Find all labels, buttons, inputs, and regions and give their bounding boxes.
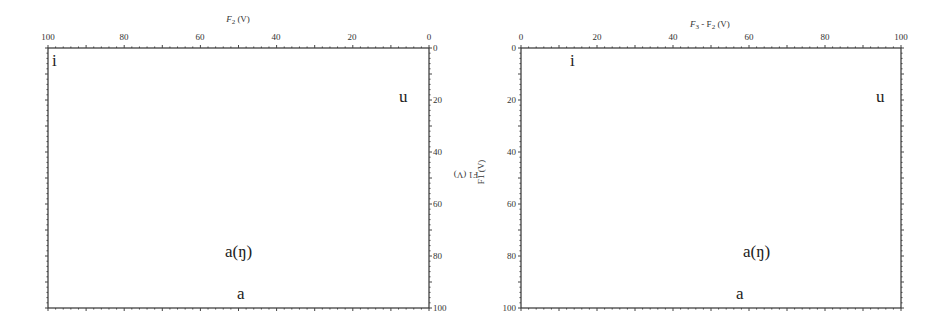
vowel-label-i: i	[52, 51, 57, 70]
vowel-label-u: u	[399, 87, 408, 106]
svg-text:60: 60	[196, 32, 206, 42]
svg-text:80: 80	[120, 32, 130, 42]
svg-text:20: 20	[433, 95, 443, 105]
vowel-label-i: i	[570, 51, 575, 70]
svg-text:40: 40	[507, 147, 517, 157]
right-y-axis-title: F1 (V)	[476, 160, 486, 184]
svg-text:100: 100	[41, 32, 55, 42]
svg-text:20: 20	[348, 32, 358, 42]
left-y-tick-labels: 0 20 40 60 80 100	[433, 43, 447, 313]
left-plot-frame	[48, 48, 429, 308]
right-chart: F3 - F2 (V) 0 20 40 60 80 100 0 20 40 60…	[476, 19, 908, 313]
vowel-label-a-ng: a(ŋ)	[225, 242, 252, 261]
svg-text:60: 60	[433, 199, 443, 209]
vowel-label-u: u	[876, 87, 885, 106]
svg-text:0: 0	[427, 32, 432, 42]
left-x-tick-labels: 100 80 60 40 20 0	[41, 32, 432, 42]
right-y-tick-labels: 0 20 40 60 80 100	[503, 43, 517, 313]
svg-text:100: 100	[503, 303, 517, 313]
vowel-charts: F2 (V) 100 80 60 40 20 0 0 20 40 60 80 1…	[0, 0, 952, 328]
svg-text:40: 40	[433, 147, 443, 157]
vowel-label-a: a	[736, 284, 744, 303]
svg-text:100: 100	[433, 303, 447, 313]
svg-text:0: 0	[519, 32, 524, 42]
right-plot-frame	[521, 48, 901, 308]
svg-text:80: 80	[821, 32, 831, 42]
left-x-axis-title: F2 (V)	[225, 14, 250, 26]
svg-text:40: 40	[272, 32, 282, 42]
svg-text:80: 80	[433, 251, 443, 261]
svg-text:60: 60	[507, 199, 517, 209]
svg-text:80: 80	[507, 251, 517, 261]
svg-text:0: 0	[512, 43, 517, 53]
svg-text:100: 100	[894, 32, 908, 42]
vowel-label-a-ng: a(ŋ)	[743, 242, 770, 261]
svg-text:0: 0	[433, 43, 438, 53]
right-x-axis-title: F3 - F2 (V)	[689, 19, 730, 31]
svg-text:40: 40	[669, 32, 679, 42]
left-chart: F2 (V) 100 80 60 40 20 0 0 20 40 60 80 1…	[41, 14, 478, 313]
vowel-label-a: a	[237, 284, 245, 303]
svg-text:20: 20	[593, 32, 603, 42]
right-x-tick-labels: 0 20 40 60 80 100	[519, 32, 909, 42]
svg-text:60: 60	[745, 32, 755, 42]
left-y-axis-title: F1 (V)	[454, 170, 478, 180]
svg-text:20: 20	[507, 95, 517, 105]
